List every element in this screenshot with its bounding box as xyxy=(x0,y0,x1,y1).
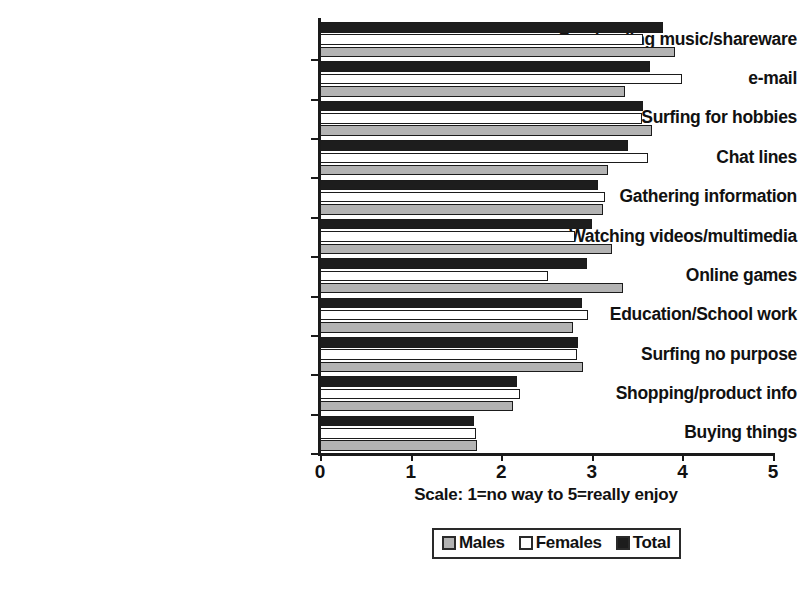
bar-group xyxy=(320,335,773,374)
x-axis-tick-label: 0 xyxy=(300,461,340,483)
bar-group xyxy=(320,20,773,59)
legend-entry: Females xyxy=(519,533,602,553)
bar-females xyxy=(320,389,520,400)
x-axis-line xyxy=(318,453,774,456)
x-axis-tick xyxy=(411,453,413,461)
y-axis-tick xyxy=(311,453,319,455)
bar-females xyxy=(320,271,548,282)
x-axis-tick-label: 2 xyxy=(481,461,521,483)
bar-group xyxy=(320,177,773,216)
bar-total xyxy=(320,416,474,427)
bar-total xyxy=(320,219,592,230)
bar-total xyxy=(320,298,582,309)
x-axis-tick xyxy=(682,453,684,461)
bar-males xyxy=(320,47,675,58)
x-axis-tick xyxy=(320,453,322,461)
bar-males xyxy=(320,86,625,97)
bar-total xyxy=(320,337,578,348)
bar-total xyxy=(320,376,517,387)
y-axis-tick xyxy=(311,217,319,219)
y-axis-tick xyxy=(311,414,319,416)
bar-females xyxy=(320,192,605,203)
legend-swatch-icon xyxy=(442,536,456,550)
bar-total xyxy=(320,101,643,112)
x-axis-tick-label: 3 xyxy=(572,461,612,483)
legend-swatch-icon xyxy=(519,536,533,550)
bar-females xyxy=(320,153,648,164)
legend-entry: Males xyxy=(442,533,505,553)
bar-females xyxy=(320,113,642,124)
bar-males xyxy=(320,283,623,294)
y-axis-tick xyxy=(311,59,319,61)
y-axis-tick xyxy=(311,335,319,337)
y-axis-tick xyxy=(311,374,319,376)
legend-entry: Total xyxy=(616,533,671,553)
bar-group xyxy=(320,296,773,335)
x-axis-title: Scale: 1=no way to 5=really enjoy xyxy=(318,485,774,505)
bar-group xyxy=(320,138,773,177)
y-axis-tick xyxy=(311,99,319,101)
bar-chart: Dowloading music/sharewaree-mailSurfing … xyxy=(0,0,807,599)
bar-group xyxy=(320,256,773,295)
bar-females xyxy=(320,74,682,85)
bar-total xyxy=(320,180,598,191)
bar-males xyxy=(320,322,573,333)
bar-group xyxy=(320,217,773,256)
legend-label: Males xyxy=(459,533,505,553)
bar-total xyxy=(320,258,587,269)
chart-legend: MalesFemalesTotal xyxy=(432,528,681,559)
y-axis-tick xyxy=(311,177,319,179)
bar-group xyxy=(320,414,773,453)
y-axis-tick xyxy=(311,138,319,140)
x-axis-tick xyxy=(773,453,775,461)
bar-total xyxy=(320,22,663,33)
legend-label: Total xyxy=(633,533,671,553)
bar-males xyxy=(320,165,608,176)
bar-females xyxy=(320,231,575,242)
legend-label: Females xyxy=(536,533,602,553)
bar-males xyxy=(320,125,652,136)
bar-males xyxy=(320,440,477,451)
bar-females xyxy=(320,310,588,321)
x-axis-tick xyxy=(592,453,594,461)
bar-females xyxy=(320,428,476,439)
bar-males xyxy=(320,244,612,255)
bar-males xyxy=(320,401,513,412)
bar-total xyxy=(320,140,628,151)
y-axis-tick xyxy=(311,256,319,258)
y-axis-tick xyxy=(311,296,319,298)
bar-total xyxy=(320,61,650,72)
bar-group xyxy=(320,99,773,138)
plot-area xyxy=(320,20,773,453)
bar-group xyxy=(320,59,773,98)
x-axis-tick-label: 5 xyxy=(753,461,793,483)
bar-group xyxy=(320,374,773,413)
bar-males xyxy=(320,204,603,215)
x-axis-tick xyxy=(501,453,503,461)
bar-females xyxy=(320,34,643,45)
x-axis-tick-label: 4 xyxy=(662,461,702,483)
legend-swatch-icon xyxy=(616,536,630,550)
bar-females xyxy=(320,349,577,360)
x-axis-tick-label: 1 xyxy=(391,461,431,483)
bar-males xyxy=(320,362,583,373)
